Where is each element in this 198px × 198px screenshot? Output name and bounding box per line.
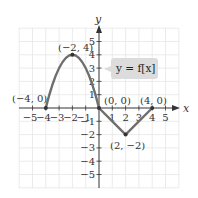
y-axis-label: y (94, 13, 102, 26)
y-tick-label: 3 (89, 63, 95, 74)
point-marker (97, 106, 101, 110)
y-tick-label: −1 (80, 116, 95, 127)
x-tick-label: 2 (122, 112, 128, 123)
x-tick-label: 4 (149, 112, 155, 123)
y-tick-label: −2 (80, 129, 95, 140)
point-label: (−4, 0) (12, 93, 47, 104)
point-label: (2, −2) (110, 140, 145, 151)
y-tick-label: −4 (80, 156, 95, 167)
point-label: (0, 0) (104, 95, 131, 106)
y-axis-arrow-icon (96, 25, 102, 33)
function-graph: x y −5 −4 −3 −2 −1 1 2 3 4 5 (0, 0, 198, 198)
point-marker (44, 106, 48, 110)
point-label: (4, 0) (140, 95, 167, 106)
point-marker (70, 53, 74, 57)
legend-callout: y = f[x] (104, 58, 158, 79)
x-axis-label: x (183, 102, 190, 115)
legend-label: y = f[x] (115, 62, 155, 74)
point-marker (150, 106, 154, 110)
y-tick-label: −3 (80, 142, 95, 153)
point-label: (−2, 4) (58, 42, 93, 53)
point-marker (124, 133, 128, 137)
x-tick-label: 5 (162, 112, 168, 123)
y-tick-label: −5 (80, 169, 95, 180)
